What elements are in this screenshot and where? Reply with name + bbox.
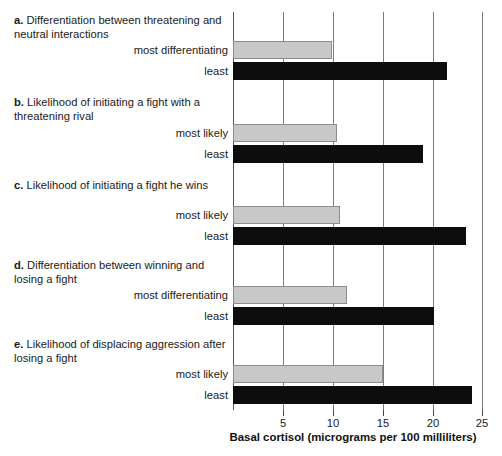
x-tick-label: 5 (263, 417, 303, 429)
panel-caption-text: Differentiation between winning and losi… (14, 259, 204, 285)
bar-category-label: least (28, 62, 228, 81)
x-tick-label: 25 (462, 417, 502, 429)
panel-letter: a. (14, 14, 26, 26)
bar-gray (233, 286, 347, 304)
panel-caption: e. Likelihood of displacing aggression a… (14, 338, 226, 365)
bar-black (233, 145, 423, 163)
bar-category-label: least (28, 386, 228, 405)
cortisol-bar-chart-figure: a. Differentiation between threatening a… (0, 0, 502, 456)
x-axis: 510152025 (233, 410, 483, 411)
panel-caption: d. Differentiation between winning and l… (14, 259, 226, 286)
panel-caption: b. Likelihood of initiating a fight with… (14, 96, 226, 123)
bar-row: most likely (0, 124, 502, 143)
bar-row: most likely (0, 365, 502, 384)
bar-category-label: most likely (28, 124, 228, 143)
x-axis-label: Basal cortisol (micrograms per 100 milli… (228, 431, 478, 443)
bar-row: least (0, 62, 502, 81)
bar-row: least (0, 386, 502, 405)
x-tick-label: 15 (363, 417, 403, 429)
bar-category-label: least (28, 145, 228, 164)
bar-row: most differentiating (0, 286, 502, 305)
x-tick (283, 410, 284, 416)
panel-letter: d. (14, 259, 27, 271)
x-tick (433, 410, 434, 416)
bar-category-label: most likely (28, 365, 228, 384)
bar-black (233, 62, 447, 80)
x-tick (333, 410, 334, 416)
panel-letter: e. (14, 338, 26, 350)
panel-list: a. Differentiation between threatening a… (0, 0, 502, 456)
bar-gray (233, 41, 332, 59)
bar-category-label: least (28, 307, 228, 326)
panel-letter: b. (14, 96, 27, 108)
bar-row: least (0, 307, 502, 326)
bar-gray (233, 206, 340, 224)
bar-row: most likely (0, 206, 502, 225)
x-tick (383, 410, 384, 416)
panel-caption-text: Differentiation between threatening and … (14, 14, 222, 40)
panel-caption: a. Differentiation between threatening a… (14, 14, 226, 41)
panel-caption-text: Likelihood of initiating a fight he wins (26, 179, 208, 191)
panel-caption-text: Likelihood of initiating a fight with a … (14, 96, 200, 122)
bar-category-label: most differentiating (28, 41, 228, 60)
bar-black (233, 307, 434, 325)
bar-row: least (0, 227, 502, 246)
panel-caption: c. Likelihood of initiating a fight he w… (14, 179, 226, 193)
bar-gray (233, 124, 337, 142)
panel-caption-text: Likelihood of displacing aggression afte… (14, 338, 225, 364)
bar-black (233, 227, 466, 245)
x-tick-label: 10 (313, 417, 353, 429)
bar-row: least (0, 145, 502, 164)
bar-category-label: most likely (28, 206, 228, 225)
bar-category-label: most differentiating (28, 286, 228, 305)
bar-black (233, 386, 472, 404)
x-tick-label: 20 (413, 417, 453, 429)
bar-row: most differentiating (0, 41, 502, 60)
bar-category-label: least (28, 227, 228, 246)
bar-gray (233, 365, 383, 383)
panel-letter: c. (14, 179, 26, 191)
x-tick (482, 410, 483, 416)
